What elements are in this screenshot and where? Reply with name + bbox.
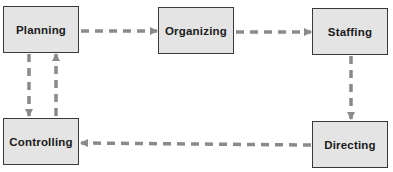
node-label: Controlling bbox=[9, 136, 73, 148]
node-label: Planning bbox=[16, 24, 66, 36]
node-staffing: Staffing bbox=[312, 8, 388, 55]
node-organizing: Organizing bbox=[158, 7, 234, 54]
node-planning: Planning bbox=[3, 6, 79, 53]
node-directing: Directing bbox=[312, 121, 388, 168]
node-label: Directing bbox=[324, 139, 376, 151]
node-label: Staffing bbox=[328, 26, 372, 38]
node-label: Organizing bbox=[165, 25, 227, 37]
node-controlling: Controlling bbox=[3, 118, 79, 165]
arrow-directing-to-controlling bbox=[81, 143, 311, 145]
